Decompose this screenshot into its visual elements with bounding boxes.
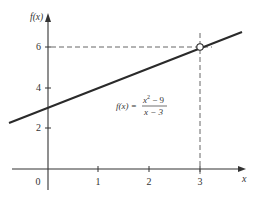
y-axis-arrow-icon [45, 13, 51, 22]
open-circle-icon [197, 44, 203, 50]
y-axis-label: f(x) [30, 12, 43, 23]
x-axis-arrow-icon [238, 166, 246, 172]
x-tick-label-3: 3 [198, 176, 203, 187]
function-graph: 0 1 2 3 2 4 6 f(x) x f(x) = x2 − 9 x − 3 [0, 0, 254, 200]
x-axis-label: x [241, 173, 247, 184]
x-tick-label-1: 1 [96, 176, 101, 187]
y-tick-label-6: 6 [36, 41, 41, 52]
y-ticks: 2 4 6 [36, 41, 51, 133]
x-tick-label-0: 0 [36, 176, 41, 187]
y-tick-label-4: 4 [36, 82, 41, 93]
function-label: f(x) = x2 − 9 x − 3 [116, 94, 167, 117]
numerator: x2 − 9 [142, 94, 165, 105]
denominator: x − 3 [143, 107, 164, 117]
x-tick-label-2: 2 [147, 176, 152, 187]
function-lhs: f(x) = [116, 101, 137, 111]
y-tick-label-2: 2 [36, 122, 41, 133]
